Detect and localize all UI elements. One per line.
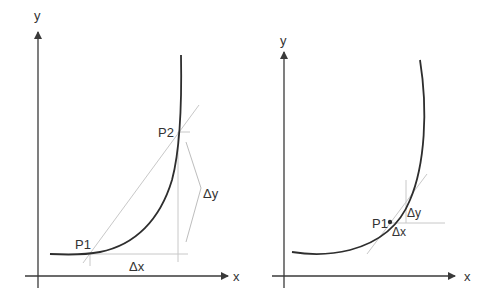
tangent-diagram: y x P1 Δy Δx bbox=[272, 33, 471, 288]
delta-y-label: Δy bbox=[203, 186, 219, 201]
x-axis-label: x bbox=[233, 269, 240, 284]
point-p1-marker bbox=[388, 220, 392, 224]
derivative-diagram: y x P1 P2 Δy Δx y x P1 Δy Δx bbox=[0, 0, 490, 302]
point-p1-label: P1 bbox=[372, 216, 388, 231]
delta-x-label: Δx bbox=[129, 259, 145, 274]
function-curve bbox=[50, 55, 181, 255]
secant-line bbox=[83, 105, 199, 263]
delta-y-brace bbox=[186, 142, 201, 242]
secant-diagram: y x P1 P2 Δy Δx bbox=[25, 8, 240, 288]
x-axis-label: x bbox=[464, 269, 471, 284]
y-axis-label: y bbox=[34, 8, 41, 23]
y-axis-label: y bbox=[280, 33, 287, 48]
delta-y-label: Δy bbox=[407, 206, 421, 220]
delta-x-label: Δx bbox=[392, 225, 406, 239]
point-p2-label: P2 bbox=[158, 125, 174, 140]
point-p1-label: P1 bbox=[75, 237, 91, 252]
